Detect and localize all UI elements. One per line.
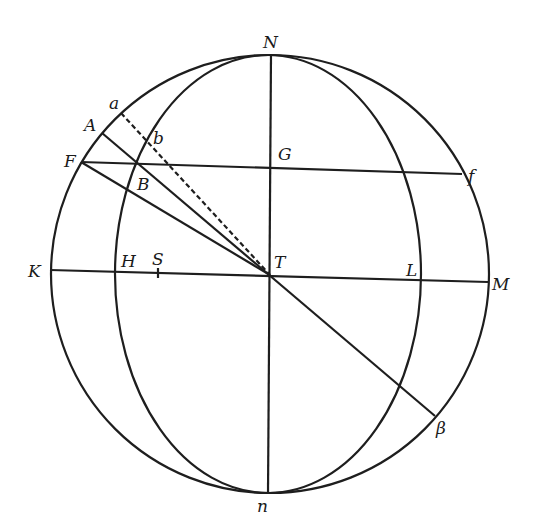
label-beta: β bbox=[435, 418, 446, 438]
label-M: M bbox=[491, 274, 510, 294]
label-n: n bbox=[257, 496, 268, 516]
label-A: A bbox=[82, 115, 96, 135]
diagram-canvas: N n T G K M H L S F f A B a b β bbox=[0, 0, 539, 532]
label-S: S bbox=[152, 249, 164, 269]
label-B: B bbox=[136, 174, 150, 194]
label-N: N bbox=[262, 32, 279, 52]
label-b: b bbox=[153, 128, 164, 148]
label-F: F bbox=[63, 151, 77, 171]
line-FT bbox=[81, 162, 270, 275]
label-L: L bbox=[405, 260, 417, 280]
label-a: a bbox=[109, 93, 119, 113]
label-T: T bbox=[274, 252, 287, 272]
label-K: K bbox=[27, 261, 42, 281]
label-H: H bbox=[120, 251, 137, 271]
label-G: G bbox=[278, 144, 292, 164]
sphere-diagram: N n T G K M H L S F f A B a b β bbox=[0, 0, 539, 532]
line-aT-dashed bbox=[121, 113, 270, 275]
label-f: f bbox=[466, 166, 477, 186]
